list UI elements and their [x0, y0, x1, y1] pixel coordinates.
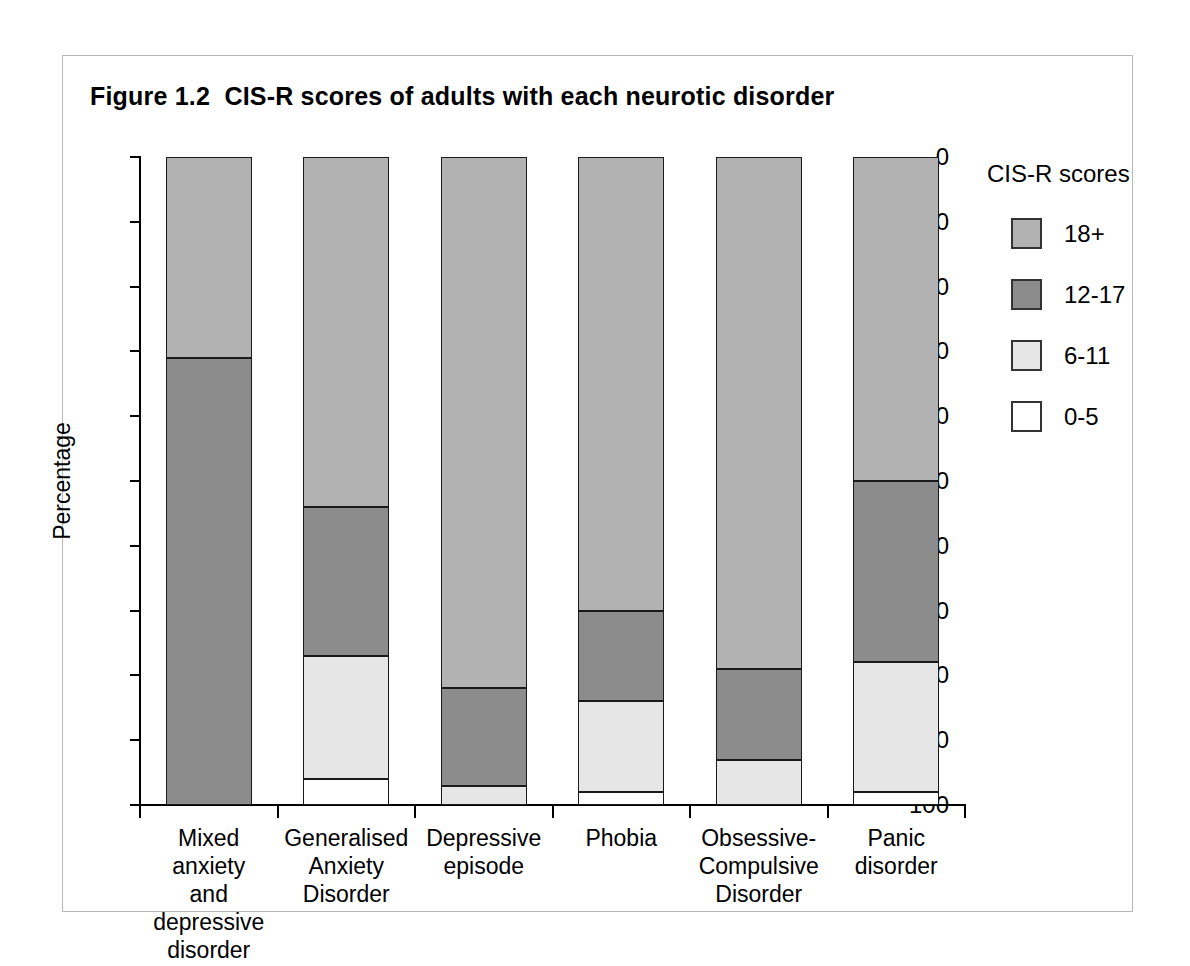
y-axis-tick	[130, 350, 140, 352]
x-axis-category-label-line: Depressive	[415, 824, 553, 852]
x-axis-category-label-line: Obsessive-	[690, 824, 828, 852]
y-axis-tick	[130, 545, 140, 547]
bar-segment[interactable]	[166, 157, 252, 358]
legend-item[interactable]: 12-17	[1011, 279, 1135, 310]
legend: CIS-R scores 18+12-176-110-5	[985, 160, 1135, 432]
stacked-bar[interactable]	[166, 157, 252, 805]
y-axis-tick	[130, 739, 140, 741]
y-axis-tick	[130, 156, 140, 158]
legend-item-label: 18+	[1064, 220, 1105, 248]
y-axis-tick	[130, 221, 140, 223]
y-axis-tick	[130, 610, 140, 612]
x-axis-category-label-line: Compulsive	[690, 852, 828, 880]
x-axis-category-label-line: depressive	[140, 908, 278, 936]
legend-item-label: 0-5	[1064, 403, 1099, 431]
x-axis-category-label-line: Disorder	[690, 880, 828, 908]
bar-segment[interactable]	[578, 157, 664, 611]
bar-segment[interactable]	[716, 157, 802, 669]
x-axis-category-label: GeneralisedAnxietyDisorder	[278, 824, 416, 908]
bar-segment[interactable]	[303, 779, 389, 805]
stacked-bar[interactable]	[716, 157, 802, 805]
legend-item-label: 12-17	[1064, 281, 1125, 309]
x-axis-tick	[827, 805, 829, 818]
stacked-bar[interactable]	[303, 157, 389, 805]
x-axis-tick	[139, 805, 141, 818]
y-axis-label: Percentage	[49, 422, 76, 540]
x-axis-category-label: Depressiveepisode	[415, 824, 553, 880]
stacked-bar[interactable]	[853, 157, 939, 805]
x-axis-tick	[552, 805, 554, 818]
figure-page: Figure 1.2 CIS-R scores of adults with e…	[0, 0, 1190, 966]
x-axis-category-label-line: Phobia	[553, 824, 691, 852]
legend-item[interactable]: 6-11	[1011, 340, 1135, 371]
bar-segment[interactable]	[853, 792, 939, 805]
x-axis-category-label-line: Mixed anxiety	[140, 824, 278, 880]
bar-segment[interactable]	[303, 656, 389, 779]
y-axis-tick	[130, 286, 140, 288]
x-axis-tick	[964, 805, 966, 818]
legend-swatch	[1011, 340, 1042, 371]
bar-segment[interactable]	[578, 611, 664, 702]
bar-segment[interactable]	[441, 688, 527, 785]
x-axis-category-label-line: disorder	[140, 936, 278, 964]
x-axis-category-label-line: and	[140, 880, 278, 908]
x-axis-category-label: Obsessive-CompulsiveDisorder	[690, 824, 828, 908]
legend-swatch	[1011, 279, 1042, 310]
stacked-bar[interactable]	[578, 157, 664, 805]
bar-segment[interactable]	[716, 760, 802, 805]
bar-segment[interactable]	[716, 669, 802, 760]
y-axis-tick	[130, 480, 140, 482]
legend-item[interactable]: 0-5	[1011, 401, 1135, 432]
bar-segment[interactable]	[441, 157, 527, 688]
y-axis-tick	[130, 415, 140, 417]
stacked-bar[interactable]	[441, 157, 527, 805]
x-axis-category-label-line: Generalised	[278, 824, 416, 852]
legend-item[interactable]: 18+	[1011, 218, 1135, 249]
x-axis-tick	[689, 805, 691, 818]
x-axis-category-label-line: Disorder	[278, 880, 416, 908]
bar-segment[interactable]	[303, 157, 389, 507]
x-axis-category-label: Mixed anxietyanddepressivedisorder	[140, 824, 278, 964]
x-axis-category-label: Panic disorder	[828, 824, 966, 880]
bar-segment[interactable]	[303, 507, 389, 656]
legend-items: 18+12-176-110-5	[985, 218, 1135, 432]
y-axis-tick	[130, 674, 140, 676]
bar-segment[interactable]	[578, 701, 664, 792]
x-axis-category-label-line: episode	[415, 852, 553, 880]
x-axis-category-label-line: Anxiety	[278, 852, 416, 880]
bar-segment[interactable]	[166, 358, 252, 805]
legend-swatch	[1011, 401, 1042, 432]
x-axis-tick	[414, 805, 416, 818]
bar-segment[interactable]	[578, 792, 664, 805]
plot-area: 1009080706050403020100	[140, 157, 965, 805]
bar-segment[interactable]	[853, 481, 939, 662]
x-axis-category-label: Phobia	[553, 824, 691, 852]
x-axis-category-label-line: Panic disorder	[828, 824, 966, 880]
bar-segment[interactable]	[853, 157, 939, 481]
bar-segment[interactable]	[853, 662, 939, 792]
bar-segment[interactable]	[441, 786, 527, 805]
legend-item-label: 6-11	[1064, 342, 1110, 370]
legend-title: CIS-R scores	[987, 160, 1135, 188]
x-axis-tick	[277, 805, 279, 818]
figure-title: Figure 1.2 CIS-R scores of adults with e…	[90, 82, 835, 111]
legend-swatch	[1011, 218, 1042, 249]
